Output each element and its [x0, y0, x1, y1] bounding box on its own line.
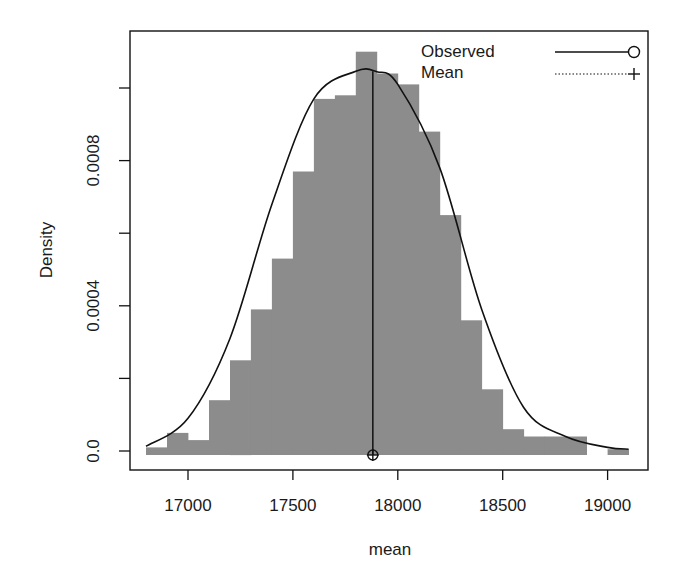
histogram-bar — [461, 320, 482, 455]
histogram-bar — [209, 400, 230, 455]
legend-observed-circle-icon — [629, 47, 640, 58]
x-tick-label: 17500 — [269, 496, 316, 515]
y-tick-label: 0.0 — [84, 439, 103, 463]
histogram-bar — [293, 172, 314, 456]
histogram-bar — [524, 437, 545, 456]
y-tick-label: 0.0004 — [84, 280, 103, 332]
histogram-bar — [272, 259, 293, 455]
histogram-bar — [503, 429, 524, 455]
x-tick-label: 18500 — [479, 496, 526, 515]
x-tick-label: 17000 — [164, 496, 211, 515]
legend-mean-label: Mean — [421, 63, 464, 82]
histogram-bar — [545, 437, 566, 456]
histogram-bar — [314, 99, 335, 455]
histogram-bar — [566, 437, 587, 456]
histogram-bars — [146, 52, 629, 455]
legend: Observed Mean — [421, 42, 640, 82]
histogram-chart: 1700017500180001850019000 0.00.00040.000… — [0, 0, 694, 581]
histogram-bar — [335, 95, 356, 455]
histogram-bar — [482, 389, 503, 455]
x-axis: 1700017500180001850019000 — [164, 470, 631, 515]
x-axis-label: mean — [369, 540, 412, 559]
histogram-bar — [398, 84, 419, 455]
y-axis: 0.00.00040.0008 — [84, 88, 130, 463]
histogram-bar — [440, 215, 461, 455]
y-axis-label: Density — [37, 221, 56, 278]
histogram-bar — [188, 440, 209, 455]
histogram-bar — [419, 132, 440, 455]
histogram-bar — [146, 447, 167, 455]
histogram-bar — [377, 74, 398, 456]
x-tick-label: 19000 — [584, 496, 631, 515]
histogram-bar — [167, 433, 188, 455]
histogram-bar — [251, 309, 272, 455]
legend-observed-label: Observed — [421, 42, 495, 61]
histogram-bar — [230, 360, 251, 455]
y-tick-label: 0.0008 — [84, 135, 103, 187]
histogram-bar — [356, 52, 377, 455]
x-tick-label: 18000 — [374, 496, 421, 515]
histogram-bar — [608, 449, 629, 455]
